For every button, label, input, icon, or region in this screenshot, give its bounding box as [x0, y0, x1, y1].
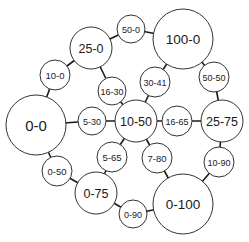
- node-label: 5-30: [83, 117, 101, 127]
- node-label: 10-50: [120, 115, 152, 129]
- nodes-layer: 0-010-025-050-0100-016-3030-4150-505-301…: [6, 9, 243, 234]
- node-label: 0-75: [83, 187, 108, 201]
- node-25-75: 25-75: [201, 100, 243, 142]
- node-label: 100-0: [166, 32, 201, 47]
- node-30-41: 30-41: [140, 67, 170, 97]
- node-label: 30-41: [143, 78, 166, 88]
- node-label: 16-30: [100, 87, 123, 97]
- node-25-0: 25-0: [70, 27, 112, 69]
- node-label: 50-0: [122, 25, 140, 35]
- node-label: 0-100: [166, 197, 201, 212]
- node-label: 10-90: [207, 158, 230, 168]
- node-label: 50-50: [202, 73, 225, 83]
- node-0-75: 0-75: [75, 172, 117, 214]
- node-label: 25-75: [206, 115, 238, 129]
- node-0-100: 0-100: [153, 174, 213, 234]
- node-7-80: 7-80: [142, 143, 172, 173]
- node-0-50: 0-50: [42, 156, 72, 186]
- graph-diagram: 0-010-025-050-0100-016-3030-4150-505-301…: [0, 0, 249, 242]
- node-label: 7-80: [147, 153, 166, 164]
- node-50-0: 50-0: [117, 15, 145, 43]
- node-10-50: 10-50: [115, 100, 157, 142]
- node-label: 0-50: [47, 166, 66, 177]
- node-16-65: 16-65: [162, 106, 192, 136]
- node-0-0: 0-0: [6, 95, 66, 155]
- node-label: 10-0: [45, 70, 64, 81]
- node-100-0: 100-0: [153, 9, 213, 69]
- node-label: 5-65: [102, 152, 121, 163]
- node-16-30: 16-30: [98, 77, 126, 105]
- node-5-30: 5-30: [78, 107, 106, 135]
- node-label: 16-65: [165, 117, 188, 127]
- node-label: 0-0: [25, 117, 47, 134]
- node-label: 25-0: [78, 42, 103, 56]
- node-50-50: 50-50: [199, 62, 229, 92]
- node-0-90: 0-90: [119, 200, 147, 228]
- node-10-90: 10-90: [204, 147, 234, 177]
- node-5-65: 5-65: [97, 142, 127, 172]
- node-label: 0-90: [124, 210, 142, 220]
- node-10-0: 10-0: [40, 60, 70, 90]
